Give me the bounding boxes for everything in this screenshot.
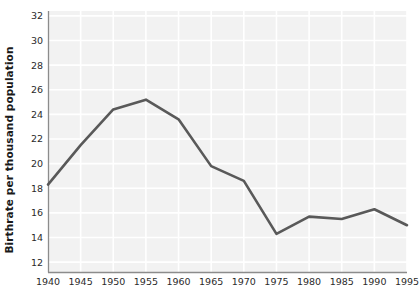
plot-area: 1214161820222426283032 19401945195019551…	[0, 0, 419, 299]
x-tick-label: 1940	[36, 276, 60, 287]
x-tick-label: 1975	[264, 276, 288, 287]
x-tick-label: 1955	[134, 276, 158, 287]
x-axis-tick-labels: 1940194519501955196019651970197519801985…	[36, 276, 419, 287]
x-tick-label: 1980	[297, 276, 321, 287]
x-tick-label: 1985	[330, 276, 354, 287]
plot-background	[48, 11, 407, 272]
x-tick-label: 1960	[166, 276, 190, 287]
x-tick-label: 1945	[69, 276, 93, 287]
x-tick-label: 1965	[199, 276, 223, 287]
x-tick-label: 1950	[101, 276, 125, 287]
y-tick-label: 30	[31, 35, 43, 46]
y-tick-label: 18	[31, 183, 43, 194]
y-tick-label: 16	[31, 207, 43, 218]
y-tick-label: 14	[31, 232, 43, 243]
y-tick-label: 24	[31, 109, 43, 120]
y-tick-label: 28	[31, 60, 43, 71]
y-axis-tick-labels: 1214161820222426283032	[31, 10, 43, 267]
y-tick-label: 22	[31, 133, 43, 144]
y-tick-label: 26	[31, 84, 43, 95]
birthrate-line-chart: Birthrate per thousand population 121416…	[0, 0, 419, 299]
y-tick-label: 12	[31, 257, 43, 268]
x-tick-label: 1995	[395, 276, 419, 287]
y-tick-label: 20	[31, 158, 43, 169]
y-tick-label: 32	[31, 10, 43, 21]
x-tick-label: 1990	[362, 276, 386, 287]
x-tick-label: 1970	[232, 276, 256, 287]
